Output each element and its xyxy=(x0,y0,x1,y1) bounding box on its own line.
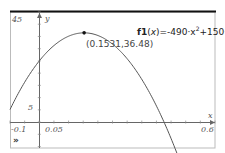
y-axis-name: y xyxy=(45,15,50,23)
y-tick-label: 5 xyxy=(28,104,33,112)
x-max-label: 0.6 xyxy=(201,126,214,134)
y-max-label: 45 xyxy=(12,16,22,24)
x-min-label: -0.1 xyxy=(11,126,26,134)
point-coordinates-label[interactable]: (0.1531,36.48) xyxy=(86,40,153,49)
expand-menu-icon[interactable]: » xyxy=(13,136,19,145)
graph-canvas[interactable] xyxy=(0,0,225,153)
y-axis-arrow-icon xyxy=(37,13,42,18)
x-axis-name: x xyxy=(208,112,213,120)
function-label[interactable]: f1(x)=-490·x2+150·x+25 xyxy=(137,26,225,37)
function-name: f1 xyxy=(137,27,147,37)
x-tick-label: 0.05 xyxy=(45,126,63,134)
function-curve-f1[interactable] xyxy=(10,33,179,153)
maximum-point[interactable] xyxy=(82,31,86,35)
